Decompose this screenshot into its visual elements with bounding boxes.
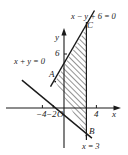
line-x-plus-y-actual (21, 140, 91, 144)
point-A-marker (54, 81, 56, 83)
point-B-marker (86, 135, 88, 137)
math-figure: x − y + 6 = 0 x + y = 0 x = 3 A B C x y … (0, 0, 128, 155)
point-label-C: C (87, 21, 93, 30)
line-x-plus-y-display (21, 140, 91, 144)
line-x-plus-y (23, 124, 91, 143)
line-label-x-minus-y-plus-6: x − y + 6 = 0 (71, 12, 116, 21)
line-x-plus-y-visible (22, 124, 91, 143)
line-x-plus-y-segment (20, 126, 92, 140)
y-axis-label: y (55, 33, 59, 42)
line-label-x-equals-3: x = 3 (82, 142, 100, 151)
y-tick-label-6: 6 (55, 49, 60, 58)
line-x-plus-y-main (22, 140, 92, 145)
coordinate-plane-svg (0, 0, 128, 155)
origin-label: O (57, 110, 64, 119)
x-tick-label-minus2: −2 (46, 110, 57, 119)
point-label-B: B (89, 127, 95, 136)
y-axis-arrowhead (61, 28, 66, 36)
line-neg-slope (21, 124, 92, 140)
line-label-x-plus-y: x + y = 0 (14, 57, 45, 66)
line-x-plus-y-real (21, 140, 91, 144)
x-tick-label-4: 4 (94, 110, 99, 119)
x-tick-label-minus4: −4 (36, 110, 47, 119)
point-label-A: A (49, 70, 55, 79)
line-x-plus-y-render (22, 140, 92, 144)
line-x-plus-y-drawn (21, 140, 92, 147)
feasible-region-fill (55, 28, 86, 136)
x-axis-label: x (112, 110, 116, 119)
line-x-plus-y-graph (21, 140, 91, 144)
